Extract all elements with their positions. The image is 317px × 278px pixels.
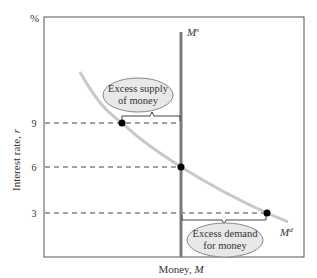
y-tick-3: 3 — [32, 208, 37, 219]
y-tick-9: 9 — [32, 118, 37, 129]
plot-frame — [44, 17, 304, 257]
money-supply-label: Ms — [186, 26, 199, 38]
point-equilibrium — [178, 164, 185, 171]
excess-demand-line1: Excess demand — [192, 228, 258, 239]
excess-supply-line2: of money — [118, 95, 159, 106]
money-market-chart: % 9 6 3 Interest rate, r Money, M Ms Md … — [0, 0, 317, 278]
money-demand-label: Md — [279, 226, 293, 238]
y-axis-title: Interest rate, r — [10, 128, 22, 191]
excess-demand-line2: for money — [203, 240, 247, 251]
excess-supply-line1: Excess supply — [108, 83, 169, 94]
x-axis-title: Money, M — [158, 263, 204, 275]
excess-supply-brace — [122, 112, 180, 121]
point-r3 — [264, 210, 271, 217]
y-tick-6: 6 — [32, 162, 37, 173]
point-r9 — [119, 120, 126, 127]
y-unit-label: % — [30, 12, 39, 24]
